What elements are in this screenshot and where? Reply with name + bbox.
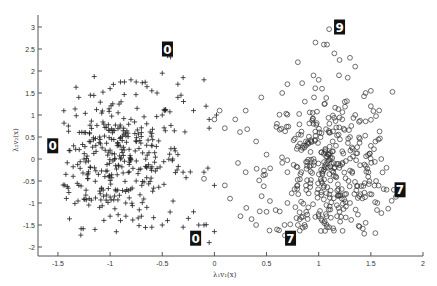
- circle-marker: [268, 199, 273, 204]
- circle-marker: [311, 73, 316, 78]
- circle-marker: [349, 218, 354, 223]
- circle-marker: [380, 170, 385, 175]
- plus-marker: [85, 154, 90, 159]
- circle-marker: [236, 161, 241, 166]
- plus-marker: [101, 218, 106, 223]
- digit-thumbnail-7: 7: [395, 182, 406, 197]
- circle-marker: [327, 27, 332, 32]
- y-tick-label: -2: [29, 244, 35, 251]
- svg-text:0: 0: [191, 232, 199, 246]
- circle-marker: [285, 112, 290, 117]
- plus-marker: [93, 179, 98, 184]
- digit-thumbnail-9: 9: [334, 20, 345, 35]
- circle-marker: [327, 144, 332, 149]
- circle-marker: [390, 89, 395, 94]
- plus-marker: [126, 170, 131, 175]
- plus-marker: [112, 194, 117, 199]
- plus-marker: [175, 82, 180, 87]
- circle-marker: [379, 211, 384, 216]
- plus-marker: [102, 134, 107, 139]
- plus-marker: [136, 146, 141, 151]
- plus-marker: [175, 95, 180, 100]
- plus-marker: [114, 229, 119, 234]
- plus-marker: [149, 88, 154, 93]
- circle-marker: [274, 124, 279, 129]
- plus-marker: [71, 164, 76, 169]
- plus-marker: [72, 201, 77, 206]
- plus-marker: [140, 150, 145, 155]
- svg-text:7: 7: [286, 232, 294, 246]
- circle-marker: [268, 166, 273, 171]
- circle-marker: [306, 205, 311, 210]
- plus-marker: [78, 159, 83, 164]
- plus-marker: [150, 127, 155, 132]
- plus-marker: [96, 172, 101, 177]
- plus-marker: [120, 188, 125, 193]
- circle-marker: [320, 86, 325, 91]
- x-tick-label: -1.5: [52, 260, 64, 267]
- circle-marker: [297, 210, 302, 215]
- circle-marker: [316, 77, 321, 82]
- circle-marker: [259, 95, 264, 100]
- plus-marker: [152, 160, 157, 165]
- circle-marker: [285, 158, 290, 163]
- plus-marker: [196, 223, 201, 228]
- y-tick-label: 1: [31, 112, 35, 119]
- plus-marker: [61, 108, 66, 113]
- plus-marker: [86, 203, 91, 208]
- plus-marker: [113, 123, 118, 128]
- circle-marker: [285, 170, 290, 175]
- y-tick-label: 0: [31, 156, 35, 163]
- plus-marker: [181, 170, 186, 175]
- y-tick-label: 1.5: [25, 90, 35, 97]
- plus-marker: [118, 218, 123, 223]
- circle-marker: [334, 143, 339, 148]
- plus-marker: [134, 158, 139, 163]
- x-axis-label: λ₁v₁(x): [213, 271, 237, 279]
- plus-marker: [139, 183, 144, 188]
- y-tick-label: 0.5: [25, 134, 35, 141]
- plus-marker: [201, 170, 206, 175]
- circle-marker: [217, 108, 222, 113]
- plus-marker: [142, 114, 147, 119]
- plus-marker: [73, 106, 78, 111]
- circle-marker: [357, 119, 362, 124]
- plus-marker: [122, 92, 127, 97]
- x-tick-label: -1: [107, 260, 113, 267]
- plus-marker: [207, 126, 212, 131]
- circle-marker: [363, 133, 368, 138]
- circle-marker: [288, 222, 293, 227]
- plus-marker: [205, 166, 210, 171]
- circle-marker: [337, 73, 342, 78]
- plus-marker: [115, 197, 120, 202]
- circle-marker: [348, 55, 353, 60]
- plus-marker: [108, 182, 113, 187]
- digit-thumbnail-0: 0: [47, 138, 58, 153]
- plus-marker: [107, 161, 112, 166]
- circle-marker: [313, 214, 318, 219]
- circle-marker: [325, 185, 330, 190]
- plus-marker: [82, 151, 87, 156]
- circle-marker: [302, 99, 307, 104]
- circle-marker: [264, 152, 269, 157]
- circle-marker: [342, 170, 347, 175]
- plus-marker: [165, 218, 170, 223]
- circle-marker: [377, 129, 382, 134]
- plus-marker: [136, 171, 141, 176]
- plus-marker: [144, 121, 149, 126]
- circle-marker: [389, 198, 394, 203]
- plus-marker: [140, 80, 145, 85]
- circle-marker: [328, 178, 333, 183]
- plus-marker: [115, 172, 120, 177]
- plus-marker: [62, 121, 67, 126]
- plus-marker: [116, 212, 121, 217]
- digit-thumbnail-0: 0: [162, 42, 173, 57]
- plus-marker: [78, 233, 83, 238]
- circle-marker: [346, 141, 351, 146]
- plus-marker: [106, 186, 111, 191]
- y-tick-label: 3: [31, 24, 35, 31]
- plus-marker: [133, 148, 138, 153]
- plus-marker: [151, 215, 156, 220]
- circle-marker: [228, 196, 233, 201]
- x-tick-label: 1.5: [366, 260, 376, 267]
